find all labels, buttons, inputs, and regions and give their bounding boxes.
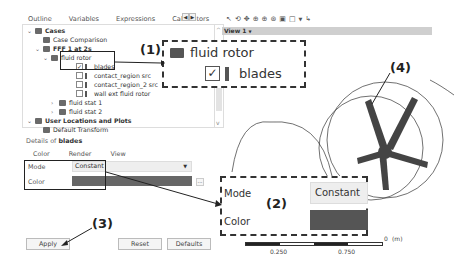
zoom-box-icon[interactable]: ⊕	[262, 15, 268, 23]
select-icon[interactable]: ↖	[226, 15, 232, 23]
tab-view[interactable]: View	[110, 150, 125, 158]
probe-icon[interactable]: ↳	[305, 15, 311, 23]
scale-zero: 0	[384, 235, 388, 242]
checkbox[interactable]	[76, 72, 83, 79]
callout-arrow-1	[115, 55, 165, 70]
defaults-button[interactable]: Defaults	[167, 238, 211, 250]
case-comparison-icon	[43, 37, 50, 43]
pan-icon[interactable]: ✥	[244, 15, 250, 23]
chevron-down-icon[interactable]: ⌄	[43, 53, 51, 62]
tab-scroll: ◀ ▶	[182, 13, 196, 21]
tree-item-contact-region-2-src[interactable]: contact_region_2 src	[76, 80, 158, 89]
tree-item-user-locations[interactable]: ⌄ User Locations and Plots	[27, 116, 131, 125]
callout-arrow-4	[372, 73, 390, 104]
domain-icon	[170, 48, 184, 58]
tab-scroll-right-icon[interactable]: ▶	[189, 13, 196, 21]
tab-outline[interactable]: Outline	[28, 15, 52, 23]
boundary-icon	[85, 73, 91, 79]
domain-icon	[51, 55, 58, 61]
dropdown-icon[interactable]: ▼	[299, 16, 303, 22]
checkbox[interactable]	[76, 81, 83, 88]
callout-arrow-3	[58, 226, 94, 248]
callout-arrow-2	[106, 170, 224, 210]
callout-box-2: Mode Color Constant	[220, 176, 368, 236]
tree-item-wall-ext[interactable]: wall ext fluid rotor	[76, 89, 150, 98]
user-locations-icon	[35, 118, 42, 124]
tab-variables[interactable]: Variables	[69, 15, 99, 23]
cases-icon	[35, 28, 42, 34]
chevron-down-icon[interactable]: ⌄	[27, 26, 35, 35]
domain-outline-circle	[232, 122, 332, 176]
view-selector[interactable]: View 1 ▼	[222, 27, 432, 35]
tab-scroll-left-icon[interactable]: ◀	[182, 13, 189, 21]
viewer-toolbar: ↖ ⟲ ✥ ⊕ ⊕ ⊛ ▣ □ ▼ ↳	[226, 13, 314, 25]
zoom-icon[interactable]: ⊕	[253, 15, 259, 23]
checkbox-checked: ✓	[205, 66, 220, 81]
details-title: Details of blades	[26, 137, 82, 145]
domain-icon	[59, 109, 66, 115]
details-tabs: Color Render View	[33, 150, 145, 158]
zoom-fit-icon[interactable]: ⊛	[270, 15, 276, 23]
boundary-icon	[85, 82, 91, 88]
callout-box-1: fluid rotor ✓ blades	[162, 40, 306, 88]
rotate-icon[interactable]: ⟲	[235, 15, 241, 23]
viewport-layout-icon[interactable]: □	[289, 15, 296, 23]
scroll-down-icon[interactable]: v	[216, 119, 220, 126]
highlight-box-tree	[60, 51, 115, 70]
domain-icon	[59, 100, 66, 106]
chevron-down-icon[interactable]: ⌄	[27, 116, 35, 125]
scale-unit: (m)	[392, 235, 403, 242]
color-swatch-enlarged	[310, 210, 368, 230]
boundary-icon	[85, 91, 91, 97]
tree-item-default-transform[interactable]: Default Transform	[35, 125, 108, 134]
tab-expressions[interactable]: Expressions	[116, 15, 155, 23]
transform-icon	[43, 127, 50, 133]
highlight-box-form	[24, 160, 106, 190]
tab-color[interactable]: Color	[33, 150, 50, 158]
boundary-icon	[225, 67, 229, 81]
tree-item-contact-region-src[interactable]: contact_region src	[76, 71, 151, 80]
tree-item-fluid-stat-1[interactable]: › fluid stat 1	[51, 98, 102, 107]
tree-item-cases[interactable]: ⌄ Cases	[27, 26, 65, 35]
chevron-right-icon[interactable]: ›	[51, 98, 59, 107]
scale-bar	[245, 242, 383, 246]
tree-item-case-comparison[interactable]: Case Comparison	[35, 35, 107, 44]
chevron-down-icon: ▼	[249, 29, 252, 34]
checkbox[interactable]	[76, 90, 83, 97]
chevron-right-icon[interactable]: ›	[51, 107, 59, 116]
fit-view-icon[interactable]: ▣	[279, 15, 286, 23]
reset-button[interactable]: Reset	[118, 238, 162, 250]
tab-render[interactable]: Render	[69, 150, 92, 158]
tree-item-fluid-stat-2[interactable]: › fluid stat 2	[51, 107, 102, 116]
scroll-up-icon[interactable]: ^	[216, 26, 221, 33]
case-icon	[43, 46, 50, 52]
chevron-down-icon[interactable]: ⌄	[35, 44, 43, 53]
